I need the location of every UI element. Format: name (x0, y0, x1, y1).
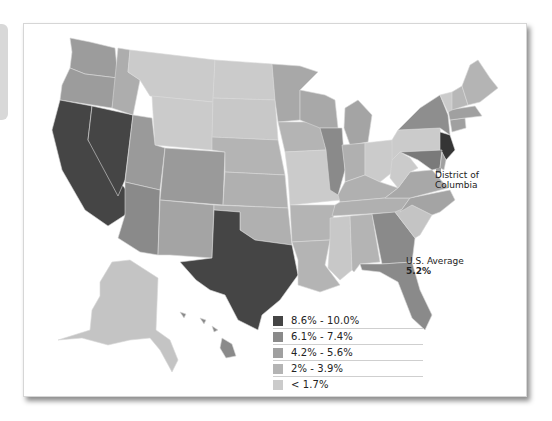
dc-label: District of Columbia (435, 170, 479, 190)
legend-item: 4.2% - 5.6% (273, 345, 423, 361)
state-nm (158, 200, 214, 258)
legend-label: 4.2% - 5.6% (291, 347, 353, 358)
us-average-value: 5.2% (406, 266, 431, 276)
state-wi (300, 90, 338, 128)
state-wy (152, 96, 213, 150)
legend-item: 6.1% - 7.4% (273, 329, 423, 345)
legend-swatch (273, 316, 283, 326)
state-mt (128, 50, 215, 102)
legend-swatch (273, 332, 283, 342)
legend-label: < 1.7% (291, 379, 329, 390)
legend-item: < 1.7% (273, 377, 423, 392)
state-nd (213, 60, 275, 100)
state-me (462, 60, 498, 105)
legend-swatch (273, 348, 283, 358)
state-mi (344, 100, 372, 145)
map-legend: 8.6% - 10.0% 6.1% - 7.4% 4.2% - 5.6% 2% … (273, 313, 423, 392)
legend-swatch (273, 364, 283, 374)
state-ak (58, 260, 178, 372)
legend-item: 8.6% - 10.0% (273, 313, 423, 329)
legend-label: 8.6% - 10.0% (291, 315, 359, 326)
legend-label: 2% - 3.9% (291, 363, 343, 374)
dc-label-line2: Columbia (435, 180, 479, 190)
state-ct (450, 118, 466, 132)
state-sd (212, 98, 278, 140)
state-ks (223, 172, 288, 208)
legend-label: 6.1% - 7.4% (291, 331, 353, 342)
us-average: U.S. Average 5.2% (406, 256, 464, 276)
state-hi (180, 312, 236, 358)
state-ar (290, 205, 335, 242)
legend-item: 2% - 3.9% (273, 361, 423, 377)
dc-label-line1: District of (435, 170, 479, 180)
state-ms (328, 216, 352, 280)
state-ny (398, 95, 450, 135)
legend-swatch (273, 380, 283, 390)
state-co (160, 148, 225, 205)
us-average-label: U.S. Average (406, 256, 464, 266)
